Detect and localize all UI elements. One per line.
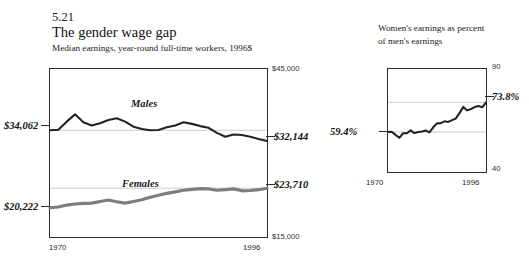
earnings-chart-plot-area [49,68,268,238]
tickmark-females-start [41,206,50,207]
figure-container: 5.21 The gender wage gap Median earnings… [0,0,529,262]
xtick-label-right-end: 1996 [462,178,479,187]
page-title: The gender wage gap [52,24,312,41]
series-line-males [50,114,267,141]
right-panel-heading: Women's earnings as percent of men's ear… [378,22,528,47]
figure-number: 5.21 [52,10,312,24]
series-line-females [50,188,267,208]
xtick-label-right-start: 1970 [366,178,383,187]
series-line-ratio [388,102,486,137]
right-panel-heading-line1: Women's earnings as percent [378,22,528,35]
callout-males-end-value: $32,144 [274,131,308,142]
figure-subtitle: Median earnings, year-round full-time wo… [52,42,312,54]
tickmark-males-start [41,125,50,126]
callout-females-start-value: $20,222 [4,201,38,212]
right-panel-heading-line2: of men's earnings [378,35,528,48]
axis-label-right-bottom: 40 [492,164,500,173]
ratio-chart-svg [388,69,486,172]
series-label-males: Males [131,98,157,109]
axis-label-left-bottom: $15,000 [272,232,299,241]
ratio-chart-plot-area [387,68,487,173]
earnings-chart-svg [50,69,267,237]
callout-females-end-value: $23,710 [274,179,308,190]
callout-ratio-start-value: 59.4% [330,126,357,137]
xtick-label-left-end: 1996 [243,243,260,252]
axis-label-left-top: $45,000 [272,64,299,73]
xtick-label-left-start: 1970 [49,243,66,252]
title-block: 5.21 The gender wage gap Median earnings… [52,10,312,54]
tickmark-ratio-start [379,131,388,132]
callout-males-start-value: $34,062 [4,120,38,131]
axis-label-right-top: 90 [492,62,500,71]
series-label-females: Females [122,178,159,189]
callout-ratio-end-value: 73.8% [492,91,519,102]
